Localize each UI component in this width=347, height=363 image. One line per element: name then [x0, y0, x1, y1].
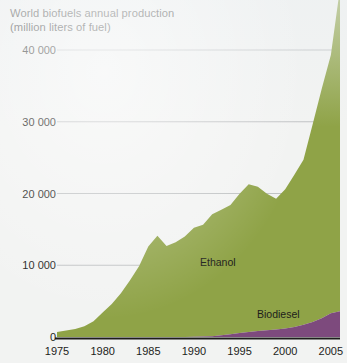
- y-axis-tick-label: 40 000: [0, 44, 56, 56]
- x-axis-tick-label: 1990: [182, 345, 206, 357]
- y-axis-tick-label: 20 000: [0, 188, 56, 200]
- series-label-biodiesel: Biodiesel: [257, 308, 300, 320]
- x-axis-tick-label: 2005: [319, 345, 343, 357]
- y-axis-tick-label: 30 000: [0, 116, 56, 128]
- x-axis-tick-label: 1980: [90, 345, 114, 357]
- y-axis-tick-label: 10 000: [0, 259, 56, 271]
- x-axis-tick-label: 1985: [136, 345, 160, 357]
- chart-figure: World biofuels annual production (millio…: [0, 0, 347, 363]
- series-area-ethanol: [57, 0, 340, 337]
- x-axis-tick-label: 2000: [273, 345, 297, 357]
- x-axis-tick-label: 1975: [45, 345, 69, 357]
- series-label-ethanol: Ethanol: [200, 256, 236, 268]
- y-axis-tick-label: 0: [0, 331, 56, 343]
- x-axis-tick-label: 1995: [227, 345, 251, 357]
- series-areas-group: [57, 0, 340, 337]
